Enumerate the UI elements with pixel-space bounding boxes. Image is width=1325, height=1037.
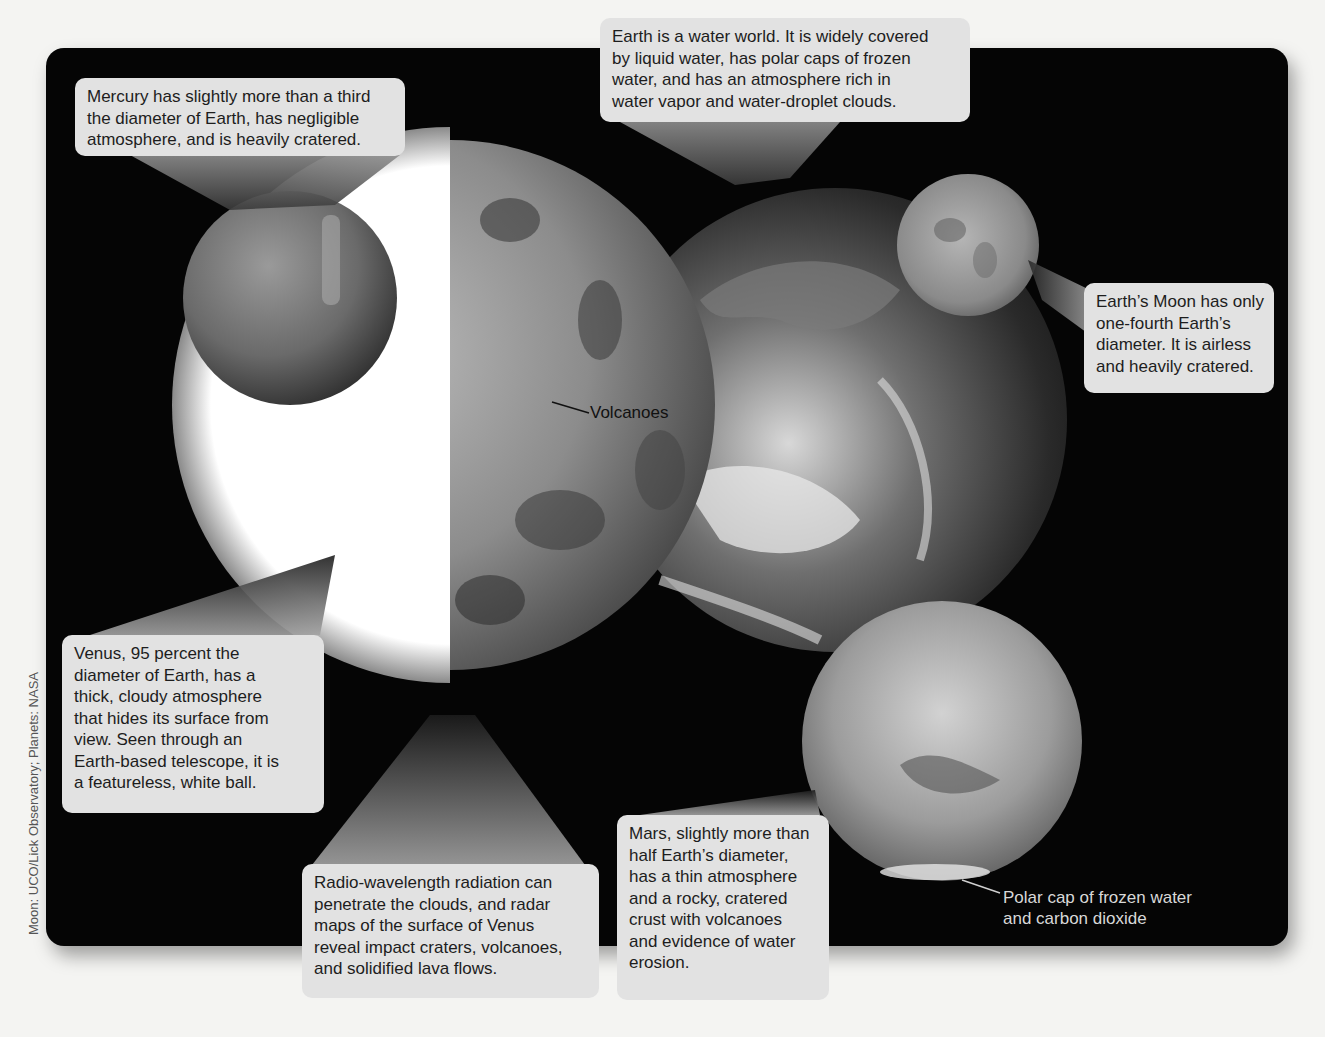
venus-callout-pointer (90, 555, 335, 635)
callout-line: the diameter of Earth, has negligible (87, 108, 395, 130)
moon-globe (897, 174, 1039, 316)
earth-callout: Earth is a water world. It is widely cov… (600, 18, 970, 122)
callout-line: a featureless, white ball. (74, 772, 314, 794)
callout-line: and heavily cratered. (1096, 356, 1264, 378)
callout-line: and a rocky, cratered (629, 888, 819, 910)
mars-globe (802, 601, 1082, 881)
callout-line: Mars, slightly more than (629, 823, 819, 845)
callout-line: Earth is a water world. It is widely cov… (612, 26, 960, 48)
callout-line: that hides its surface from (74, 708, 314, 730)
callout-line: crust with volcanoes (629, 909, 819, 931)
mercury-callout: Mercury has slightly more than a third t… (75, 78, 405, 156)
venus-radar-callout-pointer (312, 715, 585, 865)
callout-line: water vapor and water-droplet clouds. (612, 91, 960, 113)
moon-callout: Earth’s Moon has only one-fourth Earth’s… (1084, 283, 1274, 393)
callout-line: reveal impact craters, volcanoes, (314, 937, 589, 959)
earth-callout-pointer (620, 122, 840, 185)
callout-line: half Earth’s diameter, (629, 845, 819, 867)
volcanoes-label: Volcanoes (590, 403, 668, 423)
callout-line: Mercury has slightly more than a third (87, 86, 395, 108)
polar-cap-label-line: Polar cap of frozen water (1003, 887, 1192, 908)
callout-line: diameter. It is airless (1096, 334, 1264, 356)
callout-line: Earth’s Moon has only (1096, 291, 1264, 313)
venus-radar-callout: Radio-wavelength radiation can penetrate… (302, 864, 599, 998)
callout-line: erosion. (629, 952, 819, 974)
polar-cap-label-line: and carbon dioxide (1003, 908, 1192, 929)
callout-line: diameter of Earth, has a (74, 665, 314, 687)
venus-callout: Venus, 95 percent the diameter of Earth,… (62, 635, 324, 813)
callout-line: Radio-wavelength radiation can (314, 872, 589, 894)
callout-line: and solidified lava flows. (314, 958, 589, 980)
callout-line: by liquid water, has polar caps of froze… (612, 48, 960, 70)
callout-line: has a thin atmosphere (629, 866, 819, 888)
callout-line: Venus, 95 percent the (74, 643, 314, 665)
callout-line: and evidence of water (629, 931, 819, 953)
mars-callout-pointer (640, 790, 820, 815)
callout-line: atmosphere, and is heavily cratered. (87, 129, 395, 151)
callout-line: penetrate the clouds, and radar (314, 894, 589, 916)
mars-callout: Mars, slightly more than half Earth’s di… (617, 815, 829, 1000)
image-credit: Moon: UCO/Lick Observatory; Planets: NAS… (26, 672, 41, 935)
callout-line: thick, cloudy atmosphere (74, 686, 314, 708)
callout-line: maps of the surface of Venus (314, 915, 589, 937)
polar-cap-label: Polar cap of frozen water and carbon dio… (1003, 887, 1192, 929)
polar-cap-leader-line (962, 880, 1000, 893)
callout-line: view. Seen through an (74, 729, 314, 751)
callout-line: one-fourth Earth’s (1096, 313, 1264, 335)
mercury-globe (183, 191, 397, 405)
callout-line: water, and has an atmosphere rich in (612, 69, 960, 91)
callout-line: Earth-based telescope, it is (74, 751, 314, 773)
